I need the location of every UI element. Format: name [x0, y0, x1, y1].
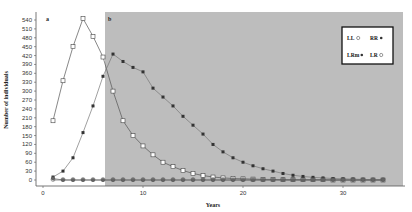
data-point: [82, 131, 85, 134]
y-tick-label: 390: [22, 61, 33, 67]
y-tick-label: 540: [22, 17, 33, 23]
y-tick-label: 210: [22, 115, 33, 121]
legend-marker-icon: [361, 54, 364, 57]
y-tick-label: 60: [25, 159, 32, 165]
data-point: [202, 133, 205, 136]
data-point: [172, 104, 175, 107]
data-point: [152, 87, 155, 90]
line-chart: ab03060901201501802102402703003303603904…: [0, 0, 412, 212]
y-tick-label: 90: [25, 150, 32, 156]
data-point: [102, 75, 105, 78]
data-point: [151, 153, 155, 157]
data-point: [101, 55, 105, 59]
y-tick-label: 420: [22, 53, 33, 59]
data-point: [72, 156, 75, 159]
data-point: [112, 53, 115, 56]
data-point: [242, 161, 245, 164]
data-point: [111, 89, 115, 93]
panel-label-a: a: [46, 16, 49, 22]
data-point: [192, 124, 195, 127]
data-point: [132, 66, 135, 69]
legend-label-rr: RR: [370, 35, 379, 41]
x-tick-label: 10: [140, 190, 147, 196]
data-point: [61, 79, 65, 83]
data-point: [222, 150, 225, 153]
data-point: [122, 60, 125, 63]
y-tick-label: 150: [22, 133, 33, 139]
data-point: [161, 160, 165, 164]
data-point: [201, 174, 205, 178]
data-point: [141, 144, 145, 148]
data-point: [181, 169, 185, 173]
data-point: [142, 70, 145, 73]
data-point: [171, 165, 175, 169]
data-point: [92, 104, 95, 107]
data-point: [81, 17, 85, 21]
y-tick-label: 30: [25, 168, 32, 174]
data-point: [182, 115, 185, 118]
y-tick-label: 330: [22, 79, 33, 85]
y-tick-label: 300: [22, 88, 33, 94]
data-point: [71, 45, 75, 49]
data-point: [91, 34, 95, 38]
y-tick-label: 180: [22, 124, 33, 130]
y-axis-label: Number of individuals: [3, 71, 9, 129]
y-tick-label: 0: [29, 177, 33, 183]
x-tick-label: 0: [41, 190, 45, 196]
data-point: [162, 96, 165, 99]
data-point: [272, 170, 275, 173]
x-tick-label: 30: [340, 190, 347, 196]
y-tick-label: 270: [22, 97, 33, 103]
x-tick-label: 20: [240, 190, 247, 196]
data-point: [232, 156, 235, 159]
data-point: [62, 170, 65, 173]
y-tick-label: 450: [22, 44, 33, 50]
data-point: [191, 171, 195, 175]
data-point: [262, 167, 265, 170]
y-tick-label: 120: [22, 141, 33, 147]
data-point: [282, 172, 285, 175]
data-point: [252, 164, 255, 167]
legend-box: [342, 27, 393, 64]
x-axis-label: Years: [206, 202, 221, 208]
y-tick-label: 510: [22, 26, 33, 32]
legend-label-ll: LL: [347, 35, 355, 41]
data-point: [121, 119, 125, 123]
data-point: [292, 174, 295, 177]
y-tick-label: 240: [22, 106, 33, 112]
data-point: [131, 134, 135, 138]
legend-label-lr: LR: [370, 52, 379, 58]
legend-marker-icon: [380, 37, 383, 40]
data-point: [51, 119, 55, 123]
data-point: [212, 143, 215, 146]
y-tick-label: 360: [22, 70, 33, 76]
y-tick-label: 480: [22, 35, 33, 41]
legend-label-lrm: LRm: [347, 52, 360, 58]
legend: LLRRLRmLR: [342, 27, 393, 64]
